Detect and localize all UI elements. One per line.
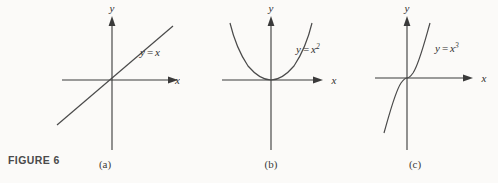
panel-b-graph-quadratic: x y y=x2 (b) bbox=[196, 0, 346, 183]
equation-label-b: y=x2 bbox=[295, 42, 320, 55]
panel-a-graph-linear: x y y=x (a) bbox=[30, 0, 180, 183]
equation-b-y: y bbox=[295, 43, 301, 55]
equation-c-exponent: 3 bbox=[454, 41, 459, 50]
plot-c-svg: x y y=x3 bbox=[340, 0, 498, 150]
panel-caption-b: (b) bbox=[196, 158, 346, 170]
curve-linear bbox=[57, 26, 173, 125]
y-axis-label-a: y bbox=[109, 2, 115, 14]
y-axis-label-b: y bbox=[268, 2, 274, 14]
y-axis-label-c: y bbox=[404, 2, 410, 14]
y-axis-a bbox=[109, 16, 116, 150]
svg-text:y=x2: y=x2 bbox=[295, 42, 320, 55]
x-axis-c bbox=[375, 75, 473, 82]
panel-caption-a: (a) bbox=[30, 158, 180, 170]
figure-container: FIGURE 6 x y y=x (a bbox=[0, 0, 498, 183]
svg-text:y=x: y=x bbox=[139, 46, 160, 58]
equation-a-eq: = bbox=[147, 46, 153, 58]
svg-text:y=x3: y=x3 bbox=[434, 41, 459, 54]
x-axis-label-c: x bbox=[481, 72, 487, 84]
x-axis-a bbox=[62, 77, 178, 84]
y-axis-c bbox=[404, 16, 411, 150]
equation-c-eq: = bbox=[442, 42, 448, 54]
equation-a-rhs: x bbox=[154, 46, 160, 58]
equation-b-eq: = bbox=[303, 43, 309, 55]
equation-label-a: y=x bbox=[139, 46, 160, 58]
panel-caption-c: (c) bbox=[340, 158, 490, 170]
equation-b-exponent: 2 bbox=[316, 42, 320, 51]
x-axis-label-a: x bbox=[174, 74, 180, 86]
plot-a-svg: x y y=x bbox=[30, 0, 180, 150]
x-axis-label-b: x bbox=[331, 74, 337, 86]
equation-c-y: y bbox=[434, 42, 440, 54]
y-axis-b bbox=[268, 16, 275, 150]
panel-c-graph-cubic: x y y=x3 (c) bbox=[340, 0, 490, 183]
plot-b-svg: x y y=x2 bbox=[196, 0, 346, 150]
equation-a-y: y bbox=[139, 46, 145, 58]
equation-label-c: y=x3 bbox=[434, 41, 459, 54]
